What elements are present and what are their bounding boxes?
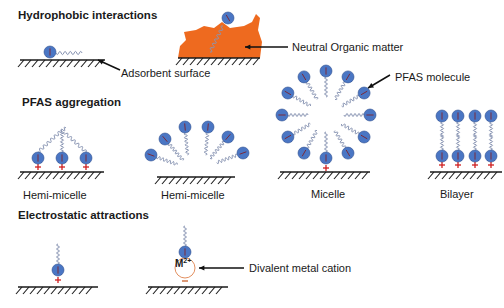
surface-hatch xyxy=(306,172,312,179)
surface-hatch xyxy=(74,60,80,67)
surface-hatch xyxy=(88,60,94,67)
surface-hatch xyxy=(79,287,85,294)
surface-hatch xyxy=(72,287,78,294)
pfas-tail xyxy=(489,135,492,150)
surface-hatch xyxy=(313,172,319,179)
surface-hatch xyxy=(162,177,168,184)
arrow-divalent-metal-cation-head xyxy=(199,265,204,270)
pfas-tail xyxy=(60,130,63,152)
surface-hatch xyxy=(195,287,201,294)
surface-hatch xyxy=(37,287,43,294)
heading-electrostatic-attractions: Electrostatic attractions xyxy=(18,209,149,221)
pfas-tail xyxy=(473,122,476,137)
label-hemi-micelle-1: Hemi-micelle xyxy=(23,189,87,201)
pfas-tail xyxy=(344,113,364,116)
pfas-tail xyxy=(64,132,87,152)
surface-hatch xyxy=(239,58,245,65)
surface-hatch xyxy=(477,172,483,179)
surface-hatch xyxy=(53,172,59,179)
surface-hatch xyxy=(65,287,71,294)
surface-hatch xyxy=(18,60,24,67)
surface-hatch xyxy=(246,58,252,65)
surface-hatch xyxy=(60,172,66,179)
surface-hatch xyxy=(232,58,238,65)
surface-hatch xyxy=(449,172,455,179)
pfas-tail xyxy=(56,244,59,264)
pfas-tail xyxy=(334,131,346,148)
neutral-organic-matter-blob xyxy=(178,14,262,58)
negative-charge-icon xyxy=(185,123,186,130)
surface-hatch xyxy=(46,60,52,67)
surface-hatch xyxy=(327,172,333,179)
pfas-tail xyxy=(38,132,60,153)
surface-hatch xyxy=(176,177,182,184)
surface-hatch xyxy=(209,287,215,294)
surface-hatch xyxy=(225,58,231,65)
pfas-tail xyxy=(293,96,311,106)
negative-charge-icon xyxy=(208,123,209,130)
surface-hatch xyxy=(155,177,161,184)
pfas-adsorption-diagram: Hydrophobic interactions PFAS aggregatio… xyxy=(0,0,504,308)
pfas-tail xyxy=(489,122,492,137)
pfas-tail xyxy=(440,135,443,150)
surface-hatch xyxy=(51,287,57,294)
surface-hatch xyxy=(58,287,64,294)
label-neutral-organic-matter: Neutral Organic matter xyxy=(292,41,403,53)
surface-hatch xyxy=(470,172,476,179)
surface-hatch xyxy=(53,60,59,67)
surface-hatch xyxy=(30,287,36,294)
label-hemi-micelle-2: Hemi-micelle xyxy=(161,189,225,201)
pfas-tail xyxy=(288,113,308,116)
heading-pfas-aggregation: PFAS aggregation xyxy=(22,96,121,108)
surface-hatch xyxy=(211,58,217,65)
surface-hatch xyxy=(32,60,38,67)
pfas-tail xyxy=(56,51,82,54)
surface-hatch xyxy=(32,172,38,179)
surface-hatch xyxy=(442,172,448,179)
surface-hatch xyxy=(491,172,497,179)
surface-hatch xyxy=(146,287,152,294)
pfas-tail xyxy=(341,124,359,134)
surface-hatch xyxy=(39,172,45,179)
surface-hatch xyxy=(74,172,80,179)
pfas-tail xyxy=(217,154,238,164)
surface-hatch xyxy=(95,172,101,179)
surface-hatch xyxy=(67,172,73,179)
surface-hatch xyxy=(428,172,434,179)
pfas-tail xyxy=(456,122,459,137)
surface-hatch xyxy=(204,177,210,184)
surface-hatch xyxy=(86,287,92,294)
label-pfas-molecule: PFAS molecule xyxy=(395,71,470,83)
surface-hatch xyxy=(60,60,66,67)
pfas-tail xyxy=(210,141,224,159)
label-divalent-metal-cation: Divalent metal cation xyxy=(249,262,351,274)
heading-hydrophobic-interactions: Hydrophobic interactions xyxy=(18,9,157,21)
pfas-tail xyxy=(324,77,327,97)
surface-hatch xyxy=(225,177,231,184)
surface-hatch xyxy=(81,60,87,67)
label-micelle: Micelle xyxy=(311,188,345,200)
surface-hatch xyxy=(188,287,194,294)
surface-hatch xyxy=(23,287,29,294)
surface-hatch xyxy=(44,287,50,294)
surface-hatch xyxy=(25,172,31,179)
surface-hatch xyxy=(348,172,354,179)
surface-hatch xyxy=(334,172,340,179)
label-adsorbent-surface: Adsorbent surface xyxy=(121,67,210,79)
label-bilayer: Bilayer xyxy=(440,188,474,200)
surface-hatch xyxy=(484,172,490,179)
surface-hatch xyxy=(218,58,224,65)
surface-hatch xyxy=(16,287,22,294)
surface-hatch xyxy=(320,172,326,179)
pfas-tail xyxy=(183,226,186,246)
metal-cation-symbol: M2+ xyxy=(175,257,191,269)
surface-hatch xyxy=(218,177,224,184)
surface-hatch xyxy=(174,287,180,294)
surface-hatch xyxy=(190,58,196,65)
surface-hatch xyxy=(299,172,305,179)
pfas-tail xyxy=(306,82,318,99)
surface-hatch xyxy=(292,172,298,179)
surface-hatch xyxy=(160,287,166,294)
surface-hatch xyxy=(202,287,208,294)
pfas-tail xyxy=(168,144,184,161)
